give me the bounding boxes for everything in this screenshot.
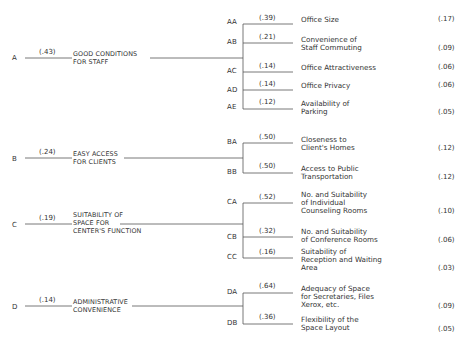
subcriterion-weight: (.12) (259, 98, 276, 107)
global-weight: (.12) (438, 144, 455, 153)
subcriterion-weight: (.16) (259, 248, 276, 257)
subcriterion-label: Office Attractiveness (301, 63, 376, 72)
subcriterion-label-line2: Staff Commuting (301, 43, 362, 52)
subcriterion-label-line3: Counseling Rooms (301, 206, 367, 215)
criterion-id: D (12, 303, 18, 312)
criterion-label-line2: CONVENIENCE (73, 306, 121, 315)
subcriterion-weight: (.64) (259, 282, 276, 291)
criterion-label-line2: FOR CLIENTS (73, 158, 116, 167)
subcriterion-id: AE (227, 103, 236, 112)
global-weight: (.06) (438, 81, 455, 90)
criterion-label-line3: CENTER'S FUNCTION (73, 227, 141, 236)
global-weight: (.10) (438, 207, 455, 216)
subcriterion-weight: (.52) (259, 193, 276, 202)
subcriterion-label-line3: Xerox, etc. (301, 300, 339, 309)
subcriterion-label: Office Privacy (301, 81, 350, 90)
subcriterion-weight: (.21) (259, 33, 276, 42)
subcriterion-id: CB (227, 233, 237, 242)
criterion-weight: (.14) (39, 296, 56, 305)
subcriterion-label-line3: Area (301, 263, 318, 272)
subcriterion-label-line2: of Conference Rooms (301, 235, 378, 244)
subcriterion-label: Office Size (301, 15, 339, 24)
subcriterion-label-line2: Space Layout (301, 323, 350, 332)
subcriterion-label-line2: Parking (301, 107, 328, 116)
subcriterion-id: AB (227, 38, 237, 47)
subcriterion-weight: (.36) (259, 313, 276, 322)
subcriterion-id: DA (227, 288, 237, 297)
global-weight: (.05) (438, 108, 455, 117)
subcriterion-weight: (.14) (259, 62, 276, 71)
subcriterion-weight: (.14) (259, 80, 276, 89)
global-weight: (.06) (438, 236, 455, 245)
global-weight: (.09) (438, 44, 455, 53)
subcriterion-id: CA (227, 198, 237, 207)
criterion-weight: (.19) (39, 214, 56, 223)
criterion-weight: (.24) (39, 148, 56, 157)
subcriterion-id: AD (227, 86, 237, 95)
global-weight: (.09) (438, 302, 455, 311)
global-weight: (.06) (438, 63, 455, 72)
criterion-label-line2: FOR STAFF (73, 58, 108, 67)
criterion-id: A (12, 54, 17, 63)
subcriterion-id: CC (227, 253, 237, 262)
subcriterion-id: DB (227, 319, 237, 328)
global-weight: (.17) (438, 15, 455, 24)
subcriterion-id: AC (227, 67, 237, 76)
subcriterion-weight: (.32) (259, 227, 276, 236)
criterion-id: B (12, 155, 17, 164)
subcriterion-weight: (.50) (259, 162, 276, 171)
criterion-weight: (.43) (39, 48, 56, 57)
global-weight: (.05) (438, 325, 455, 334)
criterion-id: C (12, 221, 17, 230)
subcriterion-weight: (.50) (259, 133, 276, 142)
global-weight: (.03) (438, 264, 455, 273)
subcriterion-label-line2: Transportation (301, 172, 353, 181)
subcriterion-weight: (.39) (259, 14, 276, 23)
subcriterion-id: AA (227, 18, 237, 27)
subcriterion-label-line2: Client's Homes (301, 143, 355, 152)
subcriterion-id: BA (227, 138, 237, 147)
global-weight: (.12) (438, 173, 455, 182)
subcriterion-id: BB (227, 168, 237, 177)
